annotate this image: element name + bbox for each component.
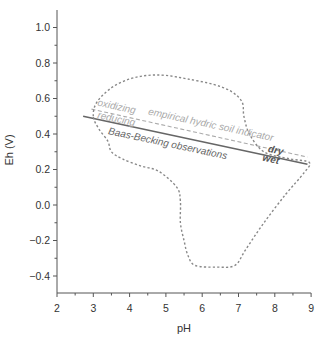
y-tick-label: 0.0	[35, 199, 50, 211]
y-axis-label: Eh (V)	[3, 134, 15, 165]
y-tick-label: 1.0	[35, 21, 50, 33]
y-tick-label: 0.2	[35, 163, 50, 175]
x-tick-label: 9	[308, 302, 314, 314]
y-tick-label: 0.8	[35, 57, 50, 69]
x-tick-label: 6	[199, 302, 205, 314]
x-axis-label: pH	[177, 322, 191, 334]
eh-ph-chart: 234567891.00.80.60.40.20.0−0.2−0.4 oxidi…	[0, 0, 323, 343]
x-tick-label: 7	[236, 302, 242, 314]
y-tick-label: 0.4	[35, 128, 50, 140]
y-tick-label: 0.6	[35, 92, 50, 104]
y-tick-label: −0.2	[29, 234, 50, 246]
annotations: oxidizingempirical hydric soil indicator…	[97, 97, 286, 166]
annotation-wet: wet	[262, 152, 281, 166]
x-tick-label: 5	[163, 302, 169, 314]
x-tick-label: 3	[90, 302, 96, 314]
x-tick-label: 8	[272, 302, 278, 314]
y-tick-label: −0.4	[29, 270, 50, 282]
x-tick-label: 4	[127, 302, 133, 314]
x-tick-label: 2	[54, 302, 60, 314]
